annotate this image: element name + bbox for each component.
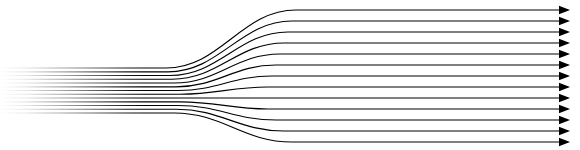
streamline-flow-diagram xyxy=(0,0,580,150)
streamline-canvas xyxy=(0,0,580,150)
